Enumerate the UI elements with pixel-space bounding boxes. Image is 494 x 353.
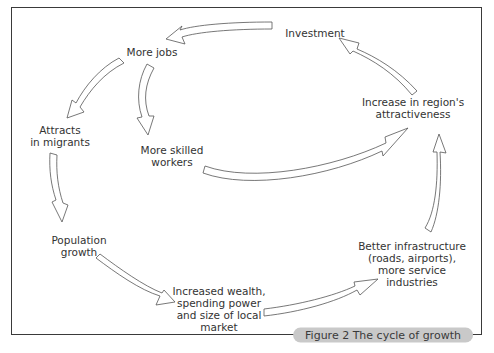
node-more-skilled-workers: More skilled workers <box>141 144 204 168</box>
arrow-infra-to-attract <box>425 134 446 232</box>
node-population-growth: Population growth <box>51 234 106 258</box>
arrow-migrants-to-population <box>50 153 68 222</box>
node-more-jobs: More jobs <box>127 46 178 58</box>
arrow-attract-to-investment <box>339 38 417 95</box>
arrow-skilled-to-attract <box>203 128 408 180</box>
arrow-jobs-to-skilled <box>137 64 154 135</box>
arrow-investment-to-jobs <box>166 22 272 44</box>
node-better-infrastructure: Better infrastructure (roads, airports),… <box>358 240 466 288</box>
node-attracts-migrants: Attracts in migrants <box>30 124 90 148</box>
figure-caption: Figure 2 The cycle of growth <box>293 328 473 343</box>
node-increased-wealth: Increased wealth, spending power and siz… <box>173 285 266 333</box>
node-investment: Investment <box>285 27 344 39</box>
arrow-jobs-to-migrants <box>67 58 124 118</box>
node-region-attractiveness: Increase in region's attractiveness <box>362 96 464 120</box>
arrow-population-to-wealth <box>96 254 175 305</box>
